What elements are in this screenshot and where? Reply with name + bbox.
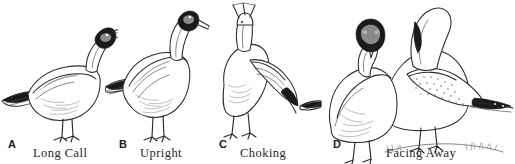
panel-letter-a: A: [8, 138, 16, 150]
panel-caption-d: Facing Away: [386, 146, 456, 161]
panel-a-long-call: A Long Call: [0, 0, 118, 164]
panel-c-choking: C Choking: [212, 0, 322, 164]
gull-choking-icon: [212, 0, 322, 164]
panel-caption-c: Choking: [240, 146, 286, 161]
panel-caption-b: Upright: [140, 146, 182, 161]
panel-b-upright: B Upright: [105, 0, 210, 164]
panel-letter-d: D: [333, 138, 341, 150]
panel-letter-c: C: [219, 138, 227, 150]
panel-d-facing-away: D Facing Away: [325, 0, 515, 164]
panel-letter-b: B: [119, 138, 127, 150]
panel-caption-a: Long Call: [33, 146, 87, 161]
gull-display-figure-plate: A Long Call: [0, 0, 515, 164]
gull-pair-facing-away-icon: [325, 0, 515, 164]
gull-long-call-icon: [0, 0, 118, 164]
